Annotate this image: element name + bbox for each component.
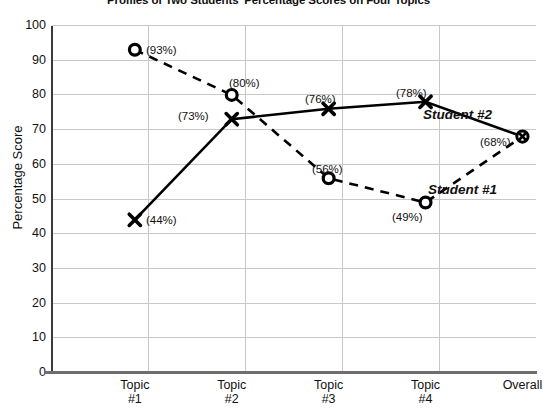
x-tick-line-1: Topic [411, 378, 440, 392]
x-tick-line-2: #2 [187, 392, 277, 406]
x-axis-tick-label: Topic#4 [381, 378, 471, 406]
data-point-label: (49%) [392, 212, 423, 224]
x-axis-tick-label: Overall [477, 378, 547, 392]
x-tick-line-1: Topic [217, 378, 246, 392]
x-tick-line-2: #1 [90, 392, 180, 406]
data-point-label: (93%) [146, 45, 177, 57]
data-point-label: (44%) [146, 215, 177, 227]
x-axis-tick-label: Topic#2 [187, 378, 277, 406]
data-point-label: (78%) [396, 88, 427, 100]
x-axis-tick-label: Topic#3 [284, 378, 374, 406]
x-tick-line-1: Overall [503, 378, 543, 392]
data-point-label: (56%) [312, 164, 343, 176]
series-label: Student #2 [423, 108, 492, 122]
gridlines [52, 26, 537, 373]
x-tick-line-2: #3 [284, 392, 374, 406]
data-point-label: (80%) [229, 78, 260, 90]
data-point-label: (68%) [480, 137, 511, 149]
x-tick-line-2: #4 [381, 392, 471, 406]
data-point-label: (73%) [178, 111, 209, 123]
x-axis-tick-label: Topic#1 [90, 378, 180, 406]
data-series [129, 44, 528, 225]
data-point-label: (76%) [305, 94, 336, 106]
series-label: Student #1 [428, 183, 497, 197]
x-tick-line-1: Topic [120, 378, 149, 392]
x-tick-line-1: Topic [314, 378, 343, 392]
